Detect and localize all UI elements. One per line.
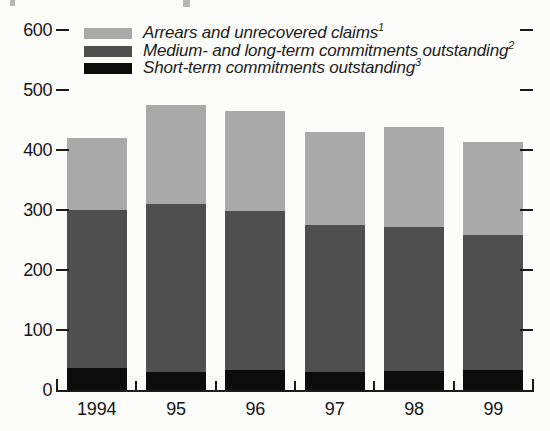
x-axis-tick — [56, 379, 58, 390]
legend-footnote-marker: 3 — [415, 56, 421, 68]
bar-99-arrears-and-unrecovered-claims-segment — [463, 142, 523, 236]
x-axis-tick — [215, 381, 217, 390]
legend-swatch-short-term — [84, 63, 132, 74]
scan-artifact — [183, 0, 190, 7]
bar-98-arrears-and-unrecovered-claims-segment — [384, 127, 444, 227]
x-axis-tick — [373, 381, 375, 390]
legend-text: Arrears and unrecovered claims — [143, 23, 378, 42]
y-axis-tick-right — [520, 269, 533, 271]
scan-artifact — [10, 0, 15, 6]
y-axis-label-300: 300 — [0, 199, 52, 221]
bar-1994-medium-and-long-term-commitments-outstanding-segment — [67, 210, 127, 368]
legend-label-arrears: Arrears and unrecovered claims1 — [143, 24, 384, 42]
y-axis-tick-right — [520, 329, 533, 331]
y-axis-label-400: 400 — [0, 139, 52, 161]
y-axis-tick-left — [56, 149, 69, 151]
y-axis-tick-right — [520, 209, 533, 211]
bar-97-medium-and-long-term-commitments-outstanding-segment — [305, 225, 365, 372]
x-axis-label-1994: 1994 — [57, 399, 136, 420]
stacked-bar-chart-figure: Arrears and unrecovered claims1 Medium- … — [0, 0, 550, 431]
x-axis-line — [56, 390, 534, 392]
bar-99-medium-and-long-term-commitments-outstanding-segment — [463, 235, 523, 369]
y-axis-tick-right — [520, 149, 533, 151]
x-axis-tick — [532, 379, 534, 390]
bar-95-arrears-and-unrecovered-claims-segment — [146, 105, 206, 204]
y-axis-label-0: 0 — [0, 379, 52, 401]
bar-99-short-term-commitments-outstanding-segment — [463, 370, 523, 390]
x-axis-tick — [453, 381, 455, 390]
x-axis-label-99: 99 — [454, 399, 533, 420]
bar-96-medium-and-long-term-commitments-outstanding-segment — [225, 211, 285, 369]
y-axis-label-600: 600 — [0, 19, 52, 41]
legend-text: Short-term commitments outstanding — [143, 58, 415, 77]
bar-95-short-term-commitments-outstanding-segment — [146, 372, 206, 390]
y-axis-label-100: 100 — [0, 319, 52, 341]
y-axis-tick-left — [56, 29, 69, 31]
x-axis-label-96: 96 — [216, 399, 295, 420]
x-axis-label-98: 98 — [374, 399, 453, 420]
y-axis-label-200: 200 — [0, 259, 52, 281]
legend-swatch-medium-long-term — [84, 46, 132, 57]
bar-97-short-term-commitments-outstanding-segment — [305, 372, 365, 390]
legend-footnote-marker: 2 — [508, 39, 514, 51]
y-axis-tick-left — [56, 329, 69, 331]
x-axis-label-97: 97 — [295, 399, 374, 420]
legend-footnote-marker: 1 — [378, 21, 384, 33]
y-axis-tick-right — [520, 29, 533, 31]
x-axis-tick — [294, 381, 296, 390]
y-axis-tick-left — [56, 209, 69, 211]
bar-96-arrears-and-unrecovered-claims-segment — [225, 111, 285, 211]
legend-label-short-term: Short-term commitments outstanding3 — [143, 59, 421, 77]
bar-95-medium-and-long-term-commitments-outstanding-segment — [146, 204, 206, 372]
legend-label-medium-long-term: Medium- and long-term commitments outsta… — [143, 42, 514, 60]
y-axis-tick-left — [56, 89, 69, 91]
y-axis-label-500: 500 — [0, 79, 52, 101]
x-axis-label-95: 95 — [136, 399, 215, 420]
bar-98-medium-and-long-term-commitments-outstanding-segment — [384, 227, 444, 370]
bar-97-arrears-and-unrecovered-claims-segment — [305, 132, 365, 225]
y-axis-tick-left — [56, 269, 69, 271]
legend-swatch-arrears — [84, 28, 132, 39]
legend-text: Medium- and long-term commitments outsta… — [143, 41, 508, 60]
x-axis-tick — [135, 381, 137, 390]
bar-1994-arrears-and-unrecovered-claims-segment — [67, 138, 127, 210]
y-axis-tick-right — [520, 89, 533, 91]
bar-1994-short-term-commitments-outstanding-segment — [67, 368, 127, 390]
bar-96-short-term-commitments-outstanding-segment — [225, 370, 285, 390]
bar-98-short-term-commitments-outstanding-segment — [384, 371, 444, 390]
